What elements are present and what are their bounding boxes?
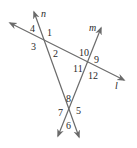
line-label-l: l <box>115 81 118 91</box>
angle-label-4: 4 <box>30 24 35 34</box>
angle-label-12: 12 <box>88 71 98 81</box>
angle-label-1: 1 <box>47 28 52 38</box>
angle-label-2: 2 <box>53 49 58 59</box>
angle-label-5: 5 <box>76 106 81 116</box>
line-l <box>10 23 124 80</box>
angle-label-7: 7 <box>58 108 63 118</box>
line-n <box>34 12 79 137</box>
line-m <box>58 28 101 136</box>
line-label-m: m <box>89 23 96 33</box>
angle-label-6: 6 <box>66 121 71 131</box>
line-label-n: n <box>41 9 46 19</box>
angle-label-3: 3 <box>31 42 36 52</box>
angle-label-9: 9 <box>94 55 99 65</box>
angle-label-11: 11 <box>73 64 83 74</box>
angle-label-8: 8 <box>66 94 71 104</box>
transversal-diagram: n m l 1 4 3 2 10 9 11 12 8 7 5 6 <box>0 0 137 148</box>
angle-label-10: 10 <box>79 48 89 58</box>
